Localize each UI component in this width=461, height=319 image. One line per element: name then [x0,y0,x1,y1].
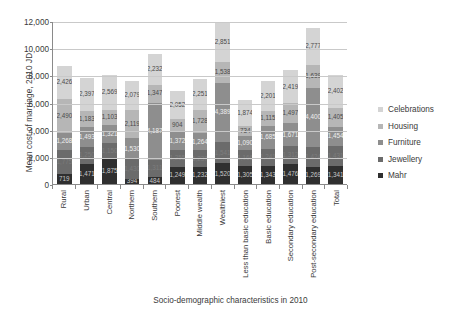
legend-swatch-icon [378,140,383,145]
x-tick-label-middle-wealth: Middle wealth [195,190,204,236]
segment-mahr: 484 [148,177,162,184]
x-label-cell: Poorest [165,190,188,285]
segment-housing: 1,405 [328,108,342,127]
segment-value-label: 2,851 [215,39,229,45]
legend-swatch-icon [378,173,383,178]
x-tick-label-rural: Rural [59,190,68,208]
y-tick-mark [50,131,53,132]
segment-value-label: 1,311 [148,165,162,171]
y-tick-label: 2,000 [29,153,50,162]
x-label-cell: Northern [120,190,143,285]
segment-celebrations: 2,079 [125,81,139,109]
x-label-cell: Post-secondary education [302,190,325,285]
x-tick-label-urban: Urban [82,190,91,211]
segment-value-label: 1,476 [283,171,297,177]
segment-value-label: 4,389 [215,109,229,115]
stacked-bar-central: 2,5691,1031,3211,1501,875 [102,75,116,184]
x-tick-label-secondary-education: Secondary education [286,190,295,261]
legend-swatch-icon [378,107,383,112]
segment-jewellery: 1,431 [328,146,342,165]
stacked-bar-northern: 2,0792,1191,5301,430394 [125,81,139,184]
legend-label: Jewellery [388,155,422,164]
x-tick-mark [302,185,303,189]
x-label-cell: Secondary education [279,190,302,285]
legend-item-housing[interactable]: Housing [378,122,434,131]
gridline [53,22,347,23]
segment-housing: 1,497 [283,103,297,123]
segment-value-label: 4,400 [306,114,320,120]
x-label-cell: Rural [52,190,75,285]
legend-item-furniture[interactable]: Furniture [378,138,434,147]
segment-value-label: 1,775 [57,159,71,165]
segment-mahr: 1,249 [170,167,184,184]
segment-value-label: 394 [127,179,138,184]
x-label-cell: Total [324,190,347,285]
segment-value-label: 484 [149,178,160,184]
stacked-bar-basic-education: 2,2011,1151,6851,2411,343 [261,81,275,184]
segment-mahr: 1,476 [283,164,297,184]
x-label-cell: Wealthiest [211,190,234,285]
segment-housing: 1,183 [80,111,94,127]
x-label-cell: Less than basic education [234,190,257,285]
x-tick-label-less-than-basic-education: Less than basic education [240,190,249,278]
segment-jewellery: 1,311 [148,160,162,178]
x-tick-mark [256,185,257,189]
x-tick-mark [165,185,166,189]
segment-celebrations: 2,777 [306,28,320,66]
legend-label: Mahr [388,171,407,180]
legend-item-jewellery[interactable]: Jewellery [378,155,434,164]
x-axis-title: Socio-demographic characteristics in 201… [0,296,461,305]
x-tick-mark [75,185,76,189]
y-tick-mark [50,76,53,77]
stacked-bar-southern: 2,2321,3474,1871,311484 [148,54,162,184]
segment-mahr: 719 [57,174,71,184]
segment-value-label: 2,490 [57,113,71,119]
x-tick-label-poorest: Poorest [172,190,181,216]
legend-item-mahr[interactable]: Mahr [378,171,434,180]
legend-item-celebrations[interactable]: Celebrations [378,105,434,114]
x-tick-label-southern: Southern [150,190,159,221]
x-tick-mark [97,185,98,189]
segment-value-label: 1,343 [261,172,275,178]
segment-value-label: 1,347 [148,90,162,96]
y-tick-label: 4,000 [29,126,50,135]
segment-value-label: 1,728 [193,118,207,124]
y-tick-label: 10,000 [24,45,49,54]
segment-jewellery: 1,312 [283,146,297,164]
x-tick-mark [52,185,53,189]
segment-value-label: 1,530 [125,146,139,152]
y-tick-mark [50,104,53,105]
x-tick-mark [188,185,189,189]
legend-swatch-icon [378,157,383,162]
y-tick-label: 8,000 [29,72,50,81]
stacked-bar-post-secondary-education: 2,7771,6394,4001,4241,269 [306,28,320,184]
x-axis-ticks [52,185,347,189]
segment-mahr: 1,341 [328,166,342,184]
segment-furniture: 1,268 [57,133,71,150]
x-label-cell: Urban [75,190,98,285]
segment-furniture: 1,685 [261,126,275,149]
segment-value-label: 2,397 [80,91,94,97]
legend-label: Furniture [388,138,421,147]
segment-furniture: 1,321 [102,125,116,143]
segment-housing: 904 [170,119,184,131]
segment-furniture: 1,090 [238,136,252,151]
y-tick-mark [50,158,53,159]
x-label-cell: Basic education [256,190,279,285]
segment-value-label: 1,541 [215,150,229,156]
y-tick-label: 0 [44,181,49,190]
segment-value-label: 1,685 [261,134,275,140]
segment-value-label: 1,150 [102,148,116,154]
segment-value-label: 1,264 [193,139,207,145]
x-tick-mark [120,185,121,189]
segment-housing: 1,347 [148,85,162,103]
segment-value-label: 1,232 [193,172,207,178]
stacked-bar-chart: Mean cost of marriage, 2010 JD 2,4262,49… [0,0,461,319]
segment-mahr: 1,520 [215,163,229,184]
segment-value-label: 1,471 [80,171,94,177]
segment-value-label: 1,269 [306,172,320,178]
segment-value-label: 1,538 [215,69,229,75]
x-tick-mark [234,185,235,189]
segment-celebrations: 2,251 [193,79,207,110]
segment-value-label: 1,405 [328,114,342,120]
